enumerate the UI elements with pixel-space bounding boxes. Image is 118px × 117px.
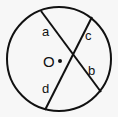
circle xyxy=(7,7,111,111)
diagram-canvas: a c b d O xyxy=(0,0,118,117)
label-b: b xyxy=(88,63,95,78)
circle-diagram: a c b d O xyxy=(0,0,118,117)
chord-ab xyxy=(41,11,101,92)
label-a: a xyxy=(42,24,50,39)
label-d: d xyxy=(42,81,49,96)
label-c: c xyxy=(85,28,92,43)
center-point xyxy=(58,59,62,63)
label-center-o: O xyxy=(43,53,55,70)
